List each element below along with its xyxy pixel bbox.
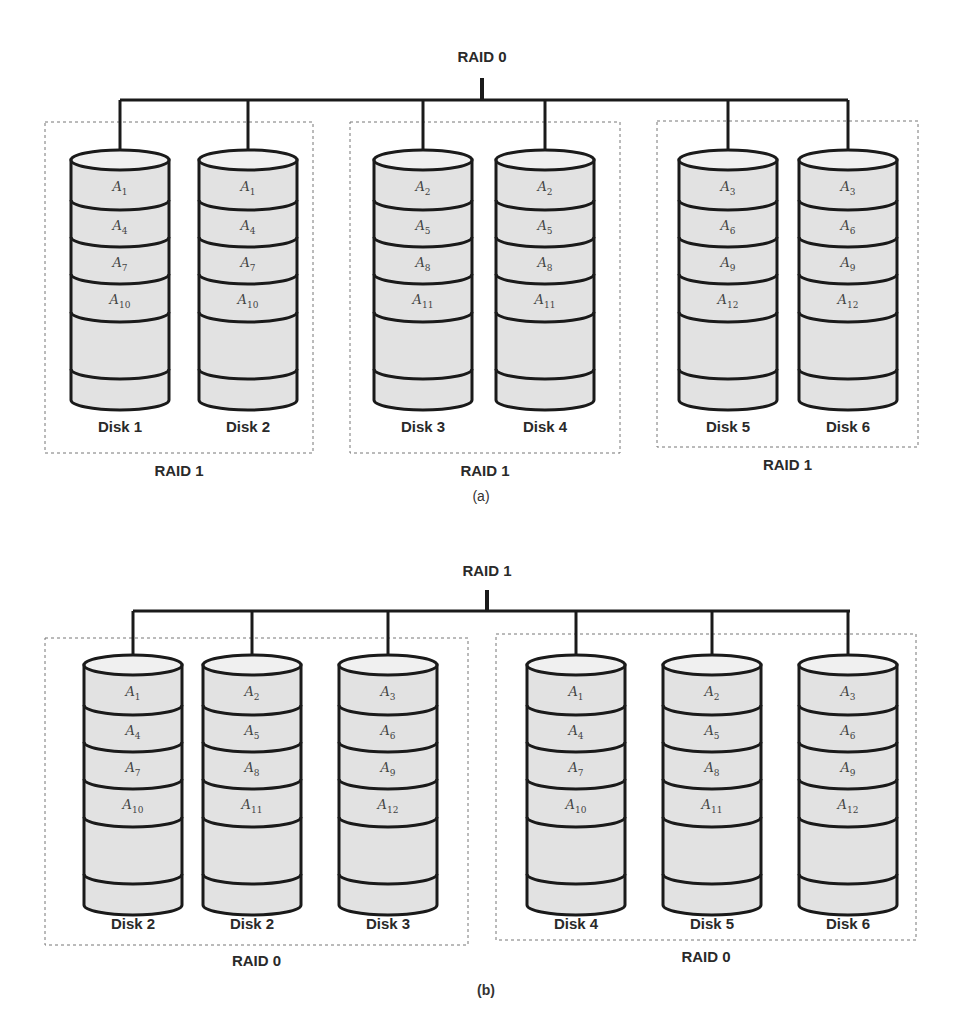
disk-top — [71, 150, 169, 170]
block-letter: A — [240, 255, 249, 270]
block-index: 6 — [730, 225, 736, 235]
group-raid-label: RAID 0 — [232, 952, 281, 969]
block-index: 5 — [547, 225, 553, 235]
block-letter: A — [240, 218, 249, 233]
block-index: 4 — [250, 225, 256, 235]
block-index: 12 — [847, 805, 858, 815]
block-index: 5 — [425, 225, 431, 235]
block-letter: A — [838, 797, 847, 812]
disk-name-label: Disk 5 — [690, 915, 734, 932]
block-letter: A — [720, 179, 729, 194]
disk-name-label: Disk 2 — [111, 915, 155, 932]
group-raid-label: RAID 1 — [460, 462, 509, 479]
block-index: 11 — [711, 805, 722, 815]
block-letter: A — [125, 684, 134, 699]
disk-top — [203, 655, 301, 675]
data-block-label: A11 — [413, 292, 434, 310]
block-letter: A — [380, 684, 389, 699]
disk-name-label: Disk 3 — [366, 915, 410, 932]
data-block-label: A3 — [380, 684, 395, 702]
block-index: 3 — [730, 187, 736, 197]
disk-top — [374, 150, 472, 170]
block-index: 10 — [247, 300, 258, 310]
block-letter: A — [537, 218, 546, 233]
data-block-label: A3 — [840, 179, 855, 197]
data-block-label: A9 — [380, 760, 395, 778]
data-block-label: A9 — [720, 255, 735, 273]
block-letter: A — [240, 179, 249, 194]
block-index: 12 — [847, 300, 858, 310]
data-block-label: A5 — [415, 218, 430, 236]
data-block-label: A11 — [535, 292, 556, 310]
top-level-raid-label: RAID 0 — [457, 48, 506, 65]
data-block-label: A11 — [702, 797, 723, 815]
block-index: 1 — [122, 187, 128, 197]
data-block-label: A1 — [112, 179, 127, 197]
raid-group — [657, 100, 918, 447]
block-index: 1 — [578, 692, 584, 702]
data-block-label: A8 — [704, 760, 719, 778]
block-letter: A — [378, 797, 387, 812]
block-index: 6 — [390, 730, 396, 740]
data-block-label: A4 — [125, 723, 140, 741]
disk-name-label: Disk 2 — [230, 915, 274, 932]
block-letter: A — [123, 797, 132, 812]
data-block-label: A2 — [415, 179, 430, 197]
block-index: 2 — [425, 187, 431, 197]
block-letter: A — [720, 218, 729, 233]
disk-name-label: Disk 4 — [554, 915, 598, 932]
data-block-label: A11 — [242, 797, 263, 815]
block-index: 6 — [850, 730, 856, 740]
raid-diagram-canvas — [0, 0, 962, 1013]
data-block-label: A5 — [244, 723, 259, 741]
data-block-label: A12 — [838, 292, 859, 310]
data-block-label: A4 — [112, 218, 127, 236]
data-block-label: A10 — [566, 797, 587, 815]
block-letter: A — [415, 218, 424, 233]
block-letter: A — [840, 723, 849, 738]
disk-name-label: Disk 4 — [523, 418, 567, 435]
disk-name-label: Disk 2 — [226, 418, 270, 435]
data-block-label: A7 — [125, 760, 140, 778]
block-letter: A — [112, 255, 121, 270]
block-letter: A — [413, 292, 422, 307]
data-block-label: A10 — [238, 292, 259, 310]
disk-name-label: Disk 5 — [706, 418, 750, 435]
block-letter: A — [702, 797, 711, 812]
disk-top — [527, 655, 625, 675]
block-letter: A — [838, 292, 847, 307]
block-index: 5 — [254, 730, 260, 740]
data-block-label: A7 — [568, 760, 583, 778]
data-block-label: A12 — [838, 797, 859, 815]
data-block-label: A12 — [718, 292, 739, 310]
block-letter: A — [566, 797, 575, 812]
block-index: 7 — [122, 262, 128, 272]
block-index: 4 — [135, 730, 141, 740]
block-letter: A — [125, 760, 134, 775]
block-letter: A — [244, 723, 253, 738]
block-letter: A — [718, 292, 727, 307]
top-level-raid-label: RAID 1 — [462, 562, 511, 579]
block-index: 9 — [390, 767, 396, 777]
block-letter: A — [380, 760, 389, 775]
data-block-label: A6 — [840, 218, 855, 236]
block-letter: A — [537, 179, 546, 194]
data-block-label: A3 — [840, 684, 855, 702]
block-index: 10 — [119, 300, 130, 310]
block-letter: A — [380, 723, 389, 738]
block-index: 11 — [251, 805, 262, 815]
figure-caption: (b) — [477, 982, 495, 998]
data-block-label: A8 — [537, 255, 552, 273]
diagram-a — [45, 78, 918, 453]
block-letter: A — [110, 292, 119, 307]
data-block-label: A9 — [840, 760, 855, 778]
block-letter: A — [415, 255, 424, 270]
block-letter: A — [568, 760, 577, 775]
disk-top — [496, 150, 594, 170]
block-index: 9 — [850, 767, 856, 777]
block-letter: A — [244, 684, 253, 699]
block-letter: A — [568, 684, 577, 699]
block-index: 3 — [850, 692, 856, 702]
block-index: 5 — [714, 730, 720, 740]
group-raid-label: RAID 1 — [154, 462, 203, 479]
